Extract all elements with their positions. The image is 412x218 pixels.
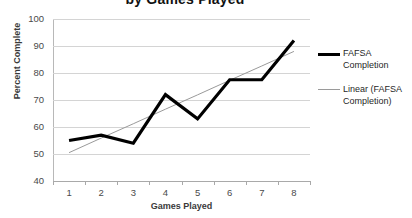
legend-item[interactable]: FAFSA Completion [318, 48, 412, 71]
x-tick-mark [182, 181, 183, 185]
x-tick-mark [85, 181, 86, 185]
x-tick-mark [149, 181, 150, 185]
legend-item[interactable]: Linear (FAFSA Completion) [318, 84, 412, 107]
x-tick-mark [310, 181, 311, 185]
legend-item-label: FAFSA Completion [343, 48, 412, 71]
x-axis-title: Games Played [53, 201, 310, 211]
x-tick-mark [246, 181, 247, 185]
x-tick-label: 7 [250, 187, 274, 198]
y-tick-label: 60 [16, 122, 44, 132]
x-tick-label: 2 [89, 187, 113, 198]
y-tick-label: 90 [16, 41, 44, 51]
linear-trendline-series [69, 51, 294, 152]
y-tick-label: 100 [16, 14, 44, 24]
x-tick-mark [278, 181, 279, 185]
chart-legend: FAFSA CompletionLinear (FAFSA Completion… [318, 48, 412, 120]
chart-container: by Games Played Percent Complete 1009080… [0, 0, 412, 218]
legend-line-swatch-trendline [318, 89, 340, 90]
x-tick-mark [117, 181, 118, 185]
gridlines-group [53, 20, 310, 155]
legend-item-label: Linear (FAFSA Completion) [343, 84, 412, 107]
y-tick-label: 40 [16, 176, 44, 186]
legend-line-swatch-series [318, 53, 340, 56]
chart-title: by Games Played [60, 0, 310, 9]
y-tick-label: 50 [16, 149, 44, 159]
y-axis-tick-labels: 100908070605040 [16, 0, 44, 218]
x-tick-label: 4 [153, 187, 177, 198]
plot-svg [53, 19, 310, 181]
y-tick-label: 80 [16, 68, 44, 78]
x-tick-label: 6 [218, 187, 242, 198]
x-tick-mark [214, 181, 215, 185]
x-tick-label: 3 [121, 187, 145, 198]
plot-area [53, 19, 310, 181]
y-tick-label: 70 [16, 95, 44, 105]
x-tick-label: 5 [186, 187, 210, 198]
x-tick-mark [53, 181, 54, 185]
x-tick-label: 8 [282, 187, 306, 198]
x-tick-label: 1 [57, 187, 81, 198]
